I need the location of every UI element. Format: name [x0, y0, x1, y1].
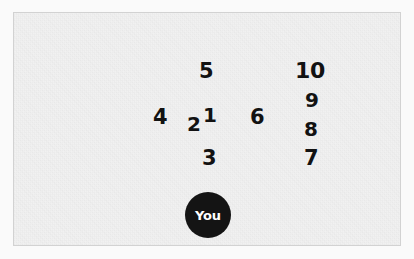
node-label-3[interactable]: 3	[202, 148, 216, 169]
node-label-4[interactable]: 4	[153, 107, 167, 128]
you-marker-label: You	[195, 209, 221, 222]
node-label-2[interactable]: 2	[187, 114, 201, 134]
node-label-6[interactable]: 6	[250, 107, 264, 128]
map-canvas: 12345678910 You	[13, 12, 401, 246]
node-label-9[interactable]: 9	[305, 90, 319, 110]
node-label-7[interactable]: 7	[304, 148, 318, 169]
scene-container: 12345678910 You	[0, 0, 414, 259]
node-label-1[interactable]: 1	[203, 105, 217, 125]
node-label-8[interactable]: 8	[304, 119, 318, 139]
node-label-10[interactable]: 10	[295, 60, 325, 82]
node-label-5[interactable]: 5	[199, 61, 213, 82]
you-marker[interactable]: You	[185, 192, 231, 238]
